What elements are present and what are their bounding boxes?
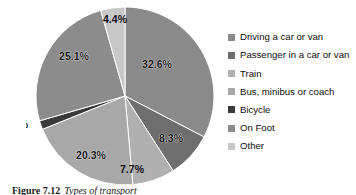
legend-item[interactable]: Passenger in a car or van — [228, 46, 354, 64]
legend-swatch-icon — [228, 143, 235, 150]
figure-caption-text: Types of transport — [64, 185, 137, 195]
pie-chart: 32.6%8.3%7.7%20.3%1.6%25.1%4.4% — [26, 4, 224, 188]
legend-item-label: Bicycle — [240, 105, 270, 115]
pie-slice-label: 1.6% — [26, 118, 29, 130]
legend-item-label: Other — [240, 141, 264, 151]
legend-item[interactable]: Driving a car or van — [228, 28, 354, 46]
legend-item[interactable]: Bus, minibus or coach — [228, 83, 354, 101]
legend-item[interactable]: Bicycle — [228, 101, 354, 119]
legend-item-label: Train — [240, 69, 262, 79]
legend-item-label: On Foot — [240, 123, 275, 133]
figure-caption-number: Figure 7.12 — [12, 185, 60, 195]
chart-legend: Driving a car or vanPassenger in a car o… — [228, 28, 354, 155]
pie-chart-svg: 32.6%8.3%7.7%20.3%1.6%25.1%4.4% — [26, 4, 224, 188]
legend-swatch-icon — [228, 125, 235, 132]
figure-container: 32.6%8.3%7.7%20.3%1.6%25.1%4.4% Driving … — [0, 0, 356, 195]
legend-swatch-icon — [228, 88, 235, 95]
legend-swatch-icon — [228, 70, 235, 77]
legend-swatch-icon — [228, 52, 235, 59]
legend-item-label: Passenger in a car or van — [240, 50, 349, 60]
pie-slice-label: 20.3% — [76, 149, 106, 161]
pie-slice-group — [36, 7, 214, 185]
pie-slice-label: 8.3% — [159, 132, 184, 144]
legend-item[interactable]: Train — [228, 64, 354, 82]
legend-swatch-icon — [228, 106, 235, 113]
legend-item[interactable]: Other — [228, 137, 354, 155]
legend-item-label: Driving a car or van — [240, 32, 323, 42]
legend-item[interactable]: On Foot — [228, 119, 354, 137]
figure-caption: Figure 7.12Types of transport — [12, 185, 137, 195]
legend-swatch-icon — [228, 34, 235, 41]
pie-slice-label: 32.6% — [142, 58, 172, 70]
legend-item-label: Bus, minibus or coach — [240, 87, 334, 97]
pie-slice-label: 25.1% — [59, 50, 89, 62]
pie-slice-label: 7.7% — [120, 163, 145, 175]
pie-slice-label: 4.4% — [103, 13, 128, 25]
